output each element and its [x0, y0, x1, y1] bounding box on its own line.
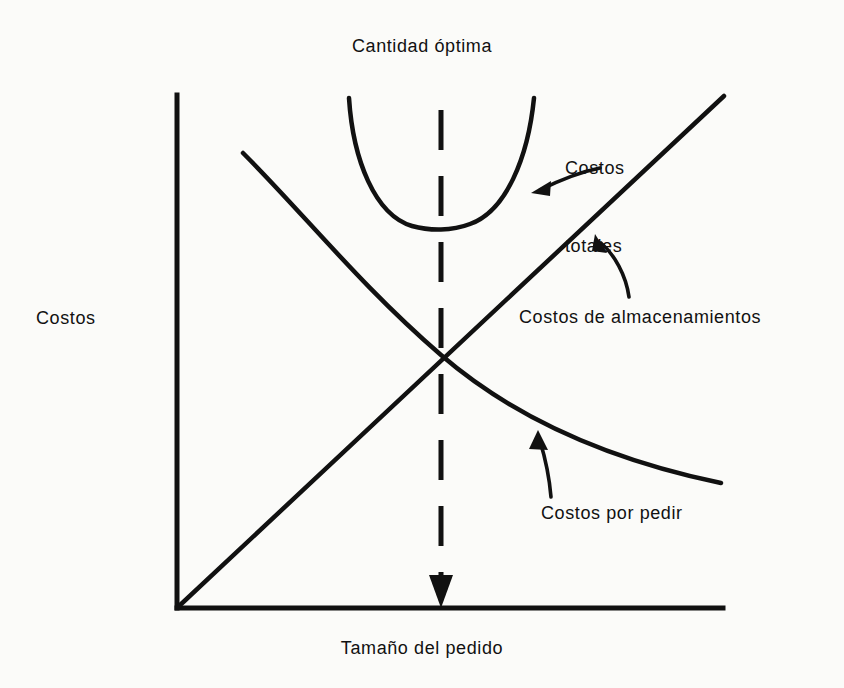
annotation-ordering-costs: Costos por pedir	[541, 503, 683, 524]
chart-title: Cantidad óptima	[0, 36, 844, 57]
annotation-total-costs-line2: totales	[565, 233, 625, 259]
optimal-quantity-arrowhead	[429, 575, 453, 608]
x-axis-label: Tamaño del pedido	[0, 638, 844, 659]
annotation-total-costs: Costos totales	[565, 103, 625, 311]
annotation-total-costs-line1: Costos	[565, 155, 625, 181]
por-pedir-leader-arrowhead	[529, 430, 548, 450]
y-axis-label: Costos	[36, 308, 96, 329]
chart-canvas	[0, 0, 844, 688]
eoq-chart-figure: Cantidad óptima Costos Tamaño del pedido…	[0, 0, 844, 688]
totales-leader-arrowhead	[531, 181, 551, 196]
annotation-storage-costs: Costos de almacenamientos	[519, 307, 761, 328]
